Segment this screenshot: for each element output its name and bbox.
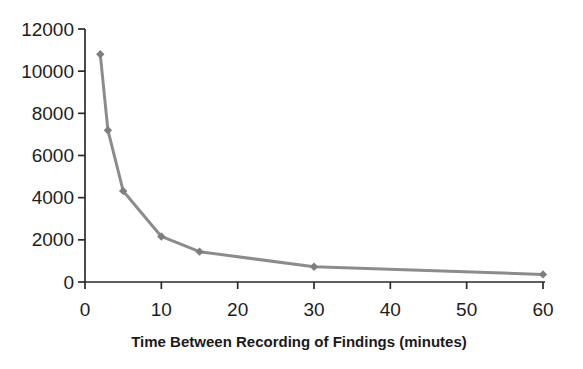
x-tick-label: 10 xyxy=(151,299,172,320)
data-point-marker xyxy=(539,270,547,278)
data-point-marker xyxy=(310,263,318,271)
data-line xyxy=(100,54,543,274)
y-tick-label: 4000 xyxy=(32,187,74,208)
y-tick-label: 2000 xyxy=(32,229,74,250)
x-tick-label: 60 xyxy=(532,299,553,320)
x-axis-title: Time Between Recording of Findings (minu… xyxy=(131,333,467,350)
y-tick-label: 8000 xyxy=(32,103,74,124)
x-tick-label: 30 xyxy=(303,299,324,320)
y-tick-label: 6000 xyxy=(32,145,74,166)
x-tick-label: 50 xyxy=(456,299,477,320)
data-point-marker xyxy=(104,126,112,134)
y-tick-label: 0 xyxy=(63,272,74,293)
x-tick-label: 20 xyxy=(227,299,248,320)
data-point-marker xyxy=(96,50,104,58)
y-tick-label: 12000 xyxy=(21,19,74,40)
y-tick-label: 10000 xyxy=(21,61,74,82)
data-point-marker xyxy=(195,247,203,255)
x-tick-label: 0 xyxy=(80,299,91,320)
line-chart: Time Between Recording of Findings (minu… xyxy=(0,0,583,369)
chart-figure: Time Between Recording of Findings (minu… xyxy=(0,0,583,369)
x-tick-label: 40 xyxy=(380,299,401,320)
